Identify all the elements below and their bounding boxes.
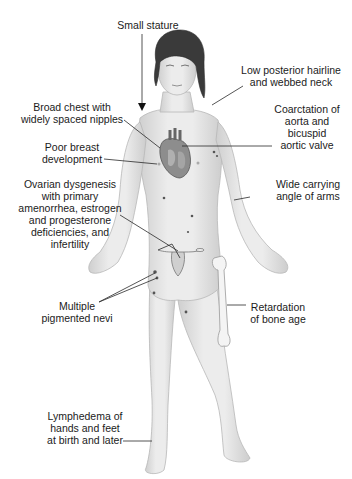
label-wide-carrying-angle: Wide carrying angle of arms (264, 178, 352, 202)
turner-syndrome-diagram: Small stature Low posterior hairline and… (0, 0, 352, 479)
label-ovarian-dysgenesis: Ovarian dysgenesis with primary amenorrh… (14, 178, 126, 250)
label-coarctation-aorta: Coarctation of aorta and bicuspid aortic… (262, 103, 352, 151)
label-small-stature: Small stature (108, 19, 188, 31)
label-retardation-bone-age: Retardation of bone age (244, 301, 312, 325)
label-multiple-pigmented-nevi: Multiple pigmented nevi (34, 300, 120, 324)
label-low-hairline-webbed-neck: Low posterior hairline and webbed neck (230, 64, 352, 88)
label-poor-breast-development: Poor breast development (36, 141, 108, 165)
label-broad-chest: Broad chest with widely spaced nipples (12, 101, 132, 125)
label-lymphedema: Lymphedema of hands and feet at birth an… (44, 410, 126, 446)
